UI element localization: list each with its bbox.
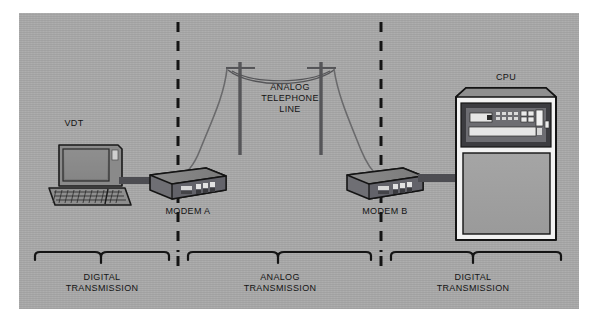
diagram-canvas: VDT ANALOG TELEPHONE LINE MODEM A MODEM … <box>0 0 597 321</box>
link-pole-b-modem-b <box>334 69 379 177</box>
modem-b <box>347 168 423 199</box>
zone-digital-left <box>35 252 169 263</box>
label-vdt: VDT <box>52 118 96 129</box>
link-modem-a-pole-a <box>176 69 227 180</box>
label-modem-b: MODEM B <box>350 206 420 217</box>
label-zone-analog: ANALOG TRANSMISSION <box>235 272 325 294</box>
link-modem-b-cpu <box>418 174 456 182</box>
label-modem-a: MODEM A <box>153 206 223 217</box>
link-vdt-modem-a <box>119 177 151 184</box>
label-analog-telephone-line: ANALOG TELEPHONE LINE <box>240 82 340 115</box>
vdt <box>49 145 131 205</box>
cpu <box>456 88 556 240</box>
zone-digital-right <box>391 252 561 263</box>
label-zone-digital-left: DIGITAL TRANSMISSION <box>57 272 147 294</box>
label-zone-digital-right: DIGITAL TRANSMISSION <box>428 272 518 294</box>
zone-analog <box>188 252 371 263</box>
modem-a <box>150 168 226 199</box>
label-cpu: CPU <box>481 72 531 83</box>
